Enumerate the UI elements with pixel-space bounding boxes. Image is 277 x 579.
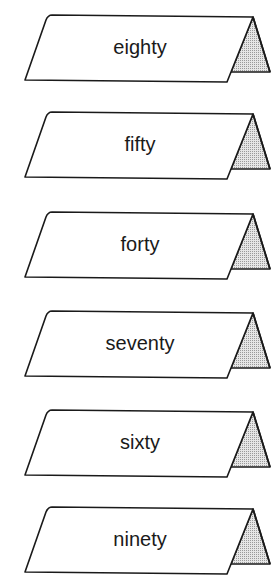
tent-card: eighty bbox=[0, 0, 277, 90]
tent-card: seventy bbox=[0, 296, 277, 386]
card-label: sixty bbox=[40, 430, 240, 454]
card-label: eighty bbox=[40, 35, 240, 59]
tent-card: forty bbox=[0, 197, 277, 287]
card-label: fifty bbox=[40, 132, 240, 156]
tent-card: ninety bbox=[0, 492, 277, 579]
tent-card: fifty bbox=[0, 97, 277, 187]
tent-card: sixty bbox=[0, 395, 277, 485]
card-label: forty bbox=[40, 232, 240, 256]
card-label: ninety bbox=[40, 527, 240, 551]
card-label: seventy bbox=[40, 331, 240, 355]
